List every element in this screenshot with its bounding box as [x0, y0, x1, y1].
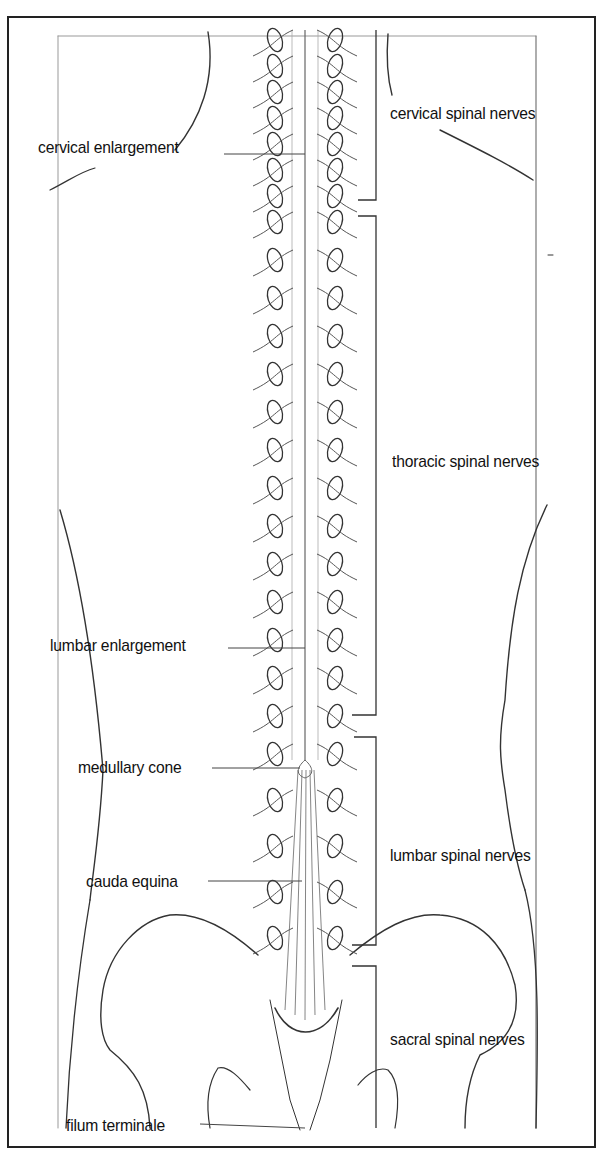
label-medullary-cone: medullary cone	[78, 758, 181, 778]
spine-illustration	[0, 0, 607, 1160]
label-cervical-spinal-nerves: cervical spinal nerves	[390, 104, 535, 124]
label-thoracic-spinal-nerves: thoracic spinal nerves	[392, 452, 539, 472]
label-lumbar-enlargement: lumbar enlargement	[50, 636, 186, 656]
label-sacral-spinal-nerves: sacral spinal nerves	[390, 1030, 525, 1050]
label-cervical-enlargement: cervical enlargement	[38, 138, 179, 158]
label-cauda-equina: cauda equina	[86, 872, 178, 892]
label-filum-terminale: filum terminale	[66, 1116, 165, 1136]
label-lumbar-spinal-nerves: lumbar spinal nerves	[390, 846, 531, 866]
